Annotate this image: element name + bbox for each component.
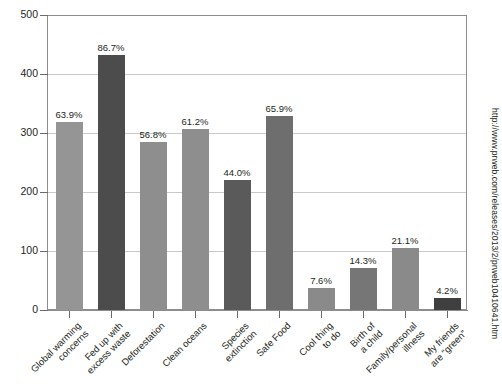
bar[interactable] xyxy=(98,55,125,310)
bar-group[interactable]: 63.9% xyxy=(56,15,83,310)
y-axis-tick-label: 200 xyxy=(4,186,38,196)
bar-group[interactable]: 65.9% xyxy=(266,15,293,310)
bar-group[interactable]: 44.0% xyxy=(224,15,251,310)
bar-group[interactable]: 56.8% xyxy=(140,15,167,310)
bar-value-label: 65.9% xyxy=(266,104,293,114)
bar-group[interactable]: 14.3% xyxy=(350,15,377,310)
category-labels: Global warming concernsFed up with exces… xyxy=(0,310,502,391)
bar[interactable] xyxy=(350,268,377,310)
bar-chart: 0100200300400500 63.9%86.7%56.8%61.2%44.… xyxy=(0,0,502,391)
bar[interactable] xyxy=(182,129,209,310)
bar-value-label: 21.1% xyxy=(392,236,419,246)
bar-value-label: 63.9% xyxy=(56,110,83,120)
y-axis-tick-label: 100 xyxy=(4,245,38,255)
y-axis-tick-label: 500 xyxy=(4,9,38,19)
bar-group[interactable]: 7.6% xyxy=(308,15,335,310)
bar-group[interactable]: 4.2% xyxy=(434,15,461,310)
bar-value-label: 4.2% xyxy=(436,286,458,296)
bar-group[interactable]: 21.1% xyxy=(392,15,419,310)
bar[interactable] xyxy=(308,288,335,310)
bar-value-label: 44.0% xyxy=(224,168,251,178)
bar[interactable] xyxy=(140,142,167,310)
y-axis-tick-label: 400 xyxy=(4,68,38,78)
bar[interactable] xyxy=(434,298,461,310)
bar[interactable] xyxy=(392,248,419,310)
bar-value-label: 7.6% xyxy=(310,276,332,286)
bar-group[interactable]: 61.2% xyxy=(182,15,209,310)
bar-value-label: 61.2% xyxy=(182,117,209,127)
bar[interactable] xyxy=(266,116,293,310)
bar[interactable] xyxy=(224,180,251,310)
bar-value-label: 86.7% xyxy=(98,43,125,53)
bars-layer: 63.9%86.7%56.8%61.2%44.0%65.9%7.6%14.3%2… xyxy=(47,15,467,310)
y-axis-tick-label: 300 xyxy=(4,127,38,137)
bar-value-label: 14.3% xyxy=(350,256,377,266)
bar-group[interactable]: 86.7% xyxy=(98,15,125,310)
source-url: http://www.prweb.com/releases/2013/2/prw… xyxy=(490,108,500,339)
bar[interactable] xyxy=(56,122,83,310)
bar-value-label: 56.8% xyxy=(140,130,167,140)
